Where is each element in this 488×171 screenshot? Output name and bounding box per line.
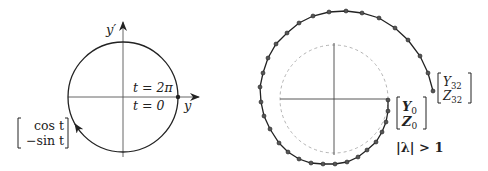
tangent-vector: cos t −sin t <box>18 118 68 148</box>
vector-neg-sin: −sin t <box>26 133 64 148</box>
spiral-point-30 <box>418 54 422 58</box>
spiral-point-8 <box>333 162 337 166</box>
spiral-point-1 <box>386 109 390 113</box>
right-diagram: Y0 Z0 Y32 Z32 |λ| > 1 <box>258 9 471 166</box>
vector-z32: Z32 <box>442 89 462 105</box>
left-diagram: y′ y t = 2π t = 0 cos t −sin t <box>18 22 199 157</box>
spiral-point-27 <box>377 16 381 20</box>
spiral-point-12 <box>286 150 290 154</box>
end-vector: Y32 Z32 <box>438 73 471 105</box>
spiral-point-6 <box>356 155 360 159</box>
spiral-point-4 <box>374 140 378 144</box>
spiral-point-31 <box>426 71 430 75</box>
spiral-point-32 <box>431 89 435 93</box>
spiral-point-5 <box>365 148 369 152</box>
t-0-label: t = 0 <box>133 98 164 113</box>
spiral-point-14 <box>268 127 272 131</box>
direction-arrow-icon <box>75 124 79 130</box>
y-prime-axis-label: y′ <box>105 22 116 37</box>
spiral-point-13 <box>277 141 281 145</box>
y-axis-label: y <box>183 98 192 113</box>
spiral-point-3 <box>380 130 384 134</box>
spiral-point-17 <box>258 85 262 89</box>
vector-z0: Z0 <box>401 114 418 131</box>
spiral-point-11 <box>297 157 301 161</box>
spiral-point-21 <box>285 31 289 35</box>
spiral-point-26 <box>360 11 364 15</box>
spiral-point-29 <box>406 38 410 42</box>
spiral-point-20 <box>274 42 278 46</box>
spiral-point-10 <box>309 161 313 165</box>
spiral-point-24 <box>327 10 331 14</box>
start-vector: Y0 Z0 <box>397 97 426 131</box>
spiral-point-16 <box>259 100 263 104</box>
t-2pi-label: t = 2π <box>133 80 173 95</box>
spiral-point-15 <box>262 114 266 118</box>
figure-canvas: y′ y t = 2π t = 0 cos t −sin t Y0 Z0 <box>0 0 488 171</box>
spiral-point-0 <box>386 98 390 102</box>
spiral-point-2 <box>384 120 388 124</box>
spiral-point-23 <box>311 14 315 18</box>
spiral-point-25 <box>344 9 348 13</box>
spiral-point-18 <box>261 71 265 75</box>
spiral-point-7 <box>345 160 349 164</box>
start-point <box>176 95 180 99</box>
spiral-point-19 <box>266 56 270 60</box>
lambda-condition-label: |λ| > 1 <box>396 140 444 155</box>
spiral-point-9 <box>321 162 325 166</box>
spiral-point-28 <box>393 26 397 30</box>
spiral-point-22 <box>297 21 301 25</box>
vector-cos: cos t <box>34 118 64 133</box>
